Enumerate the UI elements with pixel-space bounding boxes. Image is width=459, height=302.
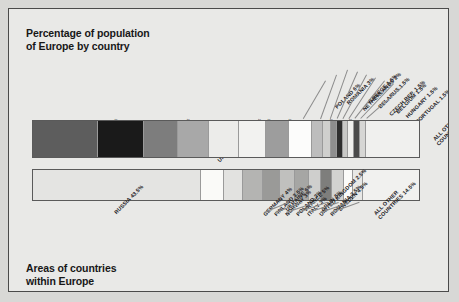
page-title-areas: Areas of countries within Europe [26,262,116,287]
areas-segment [224,170,243,200]
population-segment [366,121,419,157]
population-segment [289,121,312,157]
chart-figure: Percentage of population of Europe by co… [8,8,449,292]
population-segment [266,121,289,157]
population-segment [239,121,266,157]
population-segment [144,121,178,157]
population-segment [33,121,98,157]
population-segment [98,121,144,157]
population-segment [209,121,240,157]
page-title-population: Percentage of population of Europe by co… [26,27,150,52]
population-segment [178,121,209,157]
population-leader-line [320,75,337,119]
population-segment [312,121,323,157]
population-segment [323,121,331,157]
areas-segment [33,170,201,200]
population-label: ALL OTHER COUNTRIES 14% [431,115,449,152]
areas-segment [201,170,224,200]
population-stacked-bar [32,120,420,158]
areas-segment [243,170,262,200]
